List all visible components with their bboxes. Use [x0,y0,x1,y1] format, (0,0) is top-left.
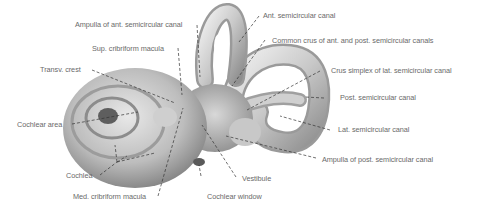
label-cochlear-window: Cochlear window [207,193,262,200]
label-cochlear-area: Cochlear area [17,121,62,128]
label-med-cribriform-macula: Med. cribriform macula [73,193,146,200]
label-ampulla-ant: Ampulla of ant. semicircular canal [75,21,182,28]
label-crus-simplex: Crus simplex of lat. semicircular canal [331,67,452,74]
label-cochlea: Cochlea [66,172,92,179]
label-ampulla-post: Ampulla of post. semicircular canal [322,156,433,163]
label-ant-semicircular-canal: Ant. semicircular canal [263,12,335,19]
cochlear-window-shape [193,158,205,166]
label-post-semicircular-canal: Post. semicircular canal [340,94,416,101]
inner-ear-diagram: Ampulla of ant. semicircular canal Sup. … [0,0,479,209]
label-transv-crest: Transv. crest [40,66,81,73]
label-common-crus: Common crus of ant. and post. semicircul… [272,37,433,44]
label-lat-semicircular-canal: Lat. semicircular canal [338,126,409,133]
label-sup-cribriform-macula: Sup. cribriform macula [92,45,164,52]
label-vestibule: Vestibule [242,175,271,182]
